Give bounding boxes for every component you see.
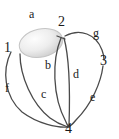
node-label-2: 2 bbox=[58, 15, 65, 29]
graph-figure: 1 2 3 4 a b c d e f g bbox=[0, 0, 119, 139]
edge-d-path bbox=[64, 38, 69, 126]
edge-label-c: c bbox=[41, 88, 46, 100]
edge-label-a: a bbox=[29, 8, 34, 20]
edge-label-f: f bbox=[5, 82, 9, 94]
edge-label-d: d bbox=[73, 68, 79, 80]
edge-label-g: g bbox=[93, 27, 99, 39]
node-label-3: 3 bbox=[100, 54, 107, 68]
node-label-1: 1 bbox=[4, 41, 11, 55]
edge-a-self-loop bbox=[17, 25, 66, 62]
edge-f-path bbox=[6, 52, 68, 127]
node-label-4: 4 bbox=[65, 122, 72, 136]
edge-label-b: b bbox=[45, 59, 51, 71]
edge-label-e: e bbox=[90, 91, 95, 103]
